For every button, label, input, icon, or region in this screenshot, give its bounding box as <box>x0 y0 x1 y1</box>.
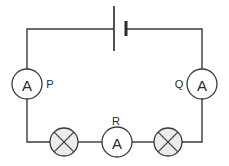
wire-bottom-right <box>182 99 202 142</box>
circuit-diagram: A P A Q A R <box>0 0 229 166</box>
ammeter-p: A P <box>12 69 54 99</box>
wire-top-right <box>126 29 202 69</box>
lamp-right <box>154 128 182 156</box>
ammeter-r: A R <box>102 115 132 157</box>
ammeter-q-label: Q <box>175 78 184 90</box>
lamp-left <box>50 128 78 156</box>
ammeter-q-symbol: A <box>197 77 207 94</box>
ammeter-p-symbol: A <box>22 77 32 94</box>
ammeter-p-label: P <box>46 78 53 90</box>
battery-cell <box>114 6 126 51</box>
ammeter-q: A Q <box>175 69 217 99</box>
wire-bottom-left <box>27 99 50 142</box>
wire-top-left <box>27 29 114 69</box>
ammeter-r-symbol: A <box>112 135 122 152</box>
ammeter-r-label: R <box>112 115 120 127</box>
